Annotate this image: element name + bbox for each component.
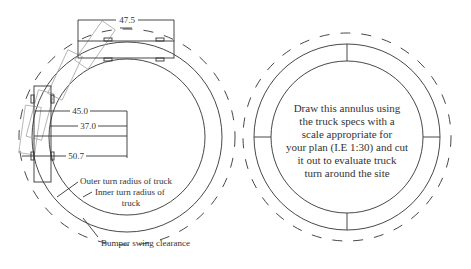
dim-label-45-0: 45.0	[72, 106, 88, 116]
truck-turning-diagram: 47.5 45.0 37.0 50.7 Outer turn radius of…	[0, 0, 471, 269]
inner-turn-label-line1: Inner turn radius of	[95, 187, 165, 197]
instruction-line: turn around the site	[304, 167, 389, 179]
dim-label-50-7: 50.7	[68, 151, 84, 161]
dim-label-37-0: 37.0	[80, 121, 96, 131]
truck-top	[78, 38, 174, 61]
instruction-line: your plan (I.E 1:30) and cut	[286, 141, 408, 154]
outer-turn-label: Outer turn radius of truck	[80, 176, 172, 186]
dim-label-47-5: 47.5	[119, 15, 135, 25]
bumper-leader	[83, 218, 98, 237]
truck-left	[31, 86, 54, 182]
instruction-line: it out to evaluate truck	[298, 154, 397, 166]
annulus-instruction: Draw this annulus using the truck specs …	[286, 102, 408, 179]
instruction-line: scale appropriate for	[302, 128, 393, 140]
inner-turn-label-line2: truck	[122, 198, 141, 208]
instruction-line: Draw this annulus using	[294, 102, 401, 114]
inner-leader	[83, 192, 92, 197]
bumper-swing-label: Bumper swing clearance	[101, 238, 190, 248]
left-figure	[19, 20, 235, 245]
instruction-line: the truck specs with a	[299, 115, 394, 127]
